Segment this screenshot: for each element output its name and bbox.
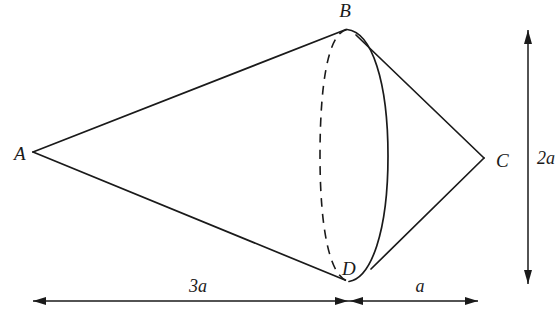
dimension-label-a: a <box>416 276 425 296</box>
arrow-bottom-2a <box>524 270 532 284</box>
arrow-left-a <box>350 297 363 305</box>
base-circle-back-arc <box>320 30 349 282</box>
edge-b-to-c <box>356 35 484 158</box>
base-circle-front-arc <box>347 30 388 282</box>
arrow-right-a <box>465 297 478 305</box>
dimension-label-3a: 3a <box>188 276 207 296</box>
arrow-left-3a <box>33 297 46 305</box>
edge-a-to-d <box>33 152 345 280</box>
edge-a-to-b <box>33 30 346 153</box>
vertex-label-d: D <box>341 258 356 279</box>
geometry-figure: A B C D 3a a 2a <box>0 0 559 311</box>
vertex-label-b: B <box>339 0 351 21</box>
figure-canvas: A B C D 3a a 2a <box>0 0 559 311</box>
arrow-right-3a <box>335 297 348 305</box>
arrow-top-2a <box>524 30 532 44</box>
dimension-label-2a: 2a <box>537 148 555 168</box>
vertex-label-c: C <box>496 150 509 171</box>
vertex-label-a: A <box>12 143 26 164</box>
